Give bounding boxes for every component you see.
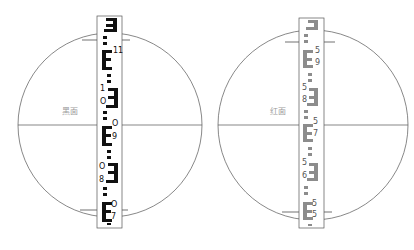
staff-number: 5 bbox=[302, 159, 307, 167]
diagram-canvas bbox=[0, 0, 414, 250]
black-face-label: 黑面 bbox=[62, 108, 78, 116]
staff-number: 5 bbox=[313, 118, 318, 126]
panel-black-face bbox=[18, 16, 202, 228]
staff-number: 9 bbox=[112, 133, 117, 141]
staff-number: 1 bbox=[100, 85, 105, 93]
staff-number: O bbox=[99, 163, 105, 171]
staff-number: 11 bbox=[113, 47, 123, 55]
staff-number: O bbox=[111, 201, 117, 209]
leveling-staff bbox=[299, 18, 324, 228]
staff-number: O bbox=[112, 120, 118, 128]
staff-number: 5 bbox=[315, 47, 320, 55]
staff-number: 6 bbox=[302, 172, 307, 180]
staff-number: 8 bbox=[302, 96, 307, 104]
staff-number: 8 bbox=[99, 176, 104, 184]
staff-number: O bbox=[100, 98, 106, 106]
red-face-label: 红面 bbox=[270, 108, 286, 116]
staff-number: 5 bbox=[302, 84, 307, 92]
diagram-stage: 黑面 红面 11 1 O O 9 O 8 O 7 5 9 5 8 5 7 5 6… bbox=[0, 0, 414, 250]
staff-number: 9 bbox=[315, 59, 320, 67]
staff-number: 5 bbox=[312, 200, 317, 208]
staff-number: 7 bbox=[313, 130, 318, 138]
staff-number: 5 bbox=[312, 211, 317, 219]
staff-number: 7 bbox=[111, 213, 116, 221]
